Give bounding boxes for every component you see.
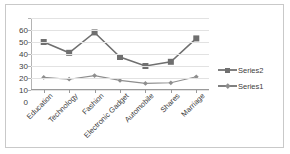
- y-axis-labels: 0102030405060: [6, 18, 28, 90]
- y-axis-tick-label: 30: [19, 63, 28, 71]
- legend-item-series2[interactable]: Series2: [218, 62, 282, 78]
- y-axis-tick-label: 60: [19, 27, 28, 35]
- x-axis-category-label: Marriage: [180, 92, 206, 118]
- legend-label-series2: Series2: [237, 66, 263, 75]
- y-axis-tick-label: 0: [24, 99, 28, 107]
- y-tick-mark: [28, 54, 31, 55]
- y-tick-mark: [28, 30, 31, 31]
- gridline: [31, 42, 209, 43]
- legend-marker-diamond-icon: [218, 81, 237, 91]
- y-tick-mark: [28, 78, 31, 79]
- y-axis-tick-label: 20: [19, 75, 28, 83]
- gridline: [31, 30, 209, 31]
- x-axis-labels: EducationTechnologyFashionElectronic Gad…: [31, 90, 209, 148]
- gridline: [31, 54, 209, 55]
- plot-area: [31, 18, 209, 90]
- data-point-diamond: [168, 80, 173, 85]
- data-point-diamond: [143, 81, 148, 86]
- legend-label-series1: Series1: [237, 82, 263, 91]
- legend-item-series1[interactable]: Series1: [218, 78, 282, 94]
- chart-legend: Series2 Series1: [218, 62, 282, 94]
- y-tick-mark: [28, 18, 31, 19]
- x-axis-category-label: Shares: [159, 92, 181, 114]
- gridline: [31, 66, 209, 67]
- legend-marker-square-icon: [218, 65, 237, 75]
- y-tick-mark: [28, 42, 31, 43]
- data-point-square: [168, 59, 174, 65]
- y-axis-tick-label: 50: [19, 39, 28, 47]
- y-tick-mark: [28, 66, 31, 67]
- chart-container: 0102030405060 EducationTechnologyFashion…: [5, 4, 284, 148]
- gridline: [31, 18, 209, 19]
- y-axis-tick-label: 10: [19, 87, 28, 95]
- y-axis-tick-label: 40: [19, 51, 28, 59]
- data-point-square: [193, 35, 199, 41]
- gridline: [31, 78, 209, 79]
